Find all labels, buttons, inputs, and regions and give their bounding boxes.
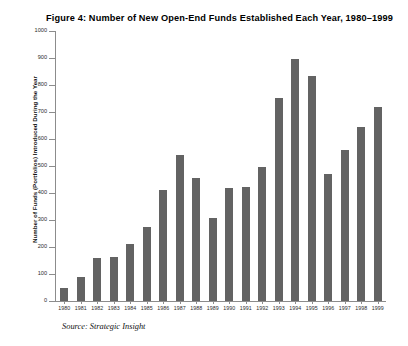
y-axis-tick-label: 700 <box>21 109 47 115</box>
y-axis-tick <box>49 112 55 113</box>
y-axis-tick-label: 400 <box>21 190 47 196</box>
y-axis-tick-label: 200 <box>21 244 47 250</box>
x-axis-tick <box>163 301 164 304</box>
y-axis-tick <box>49 58 55 59</box>
x-axis-tick <box>147 301 148 304</box>
x-axis-tick <box>130 301 131 304</box>
y-axis-label-wrap: 0 <box>17 298 47 304</box>
y-axis-label-wrap: 200 <box>17 244 47 250</box>
source-note: Source: Strategic Insight <box>62 322 145 331</box>
y-axis-tick <box>49 139 55 140</box>
bar <box>324 174 332 301</box>
y-axis-tick <box>49 274 55 275</box>
bar <box>258 167 266 301</box>
y-axis-tick-label: 900 <box>21 55 47 61</box>
bar <box>143 227 151 301</box>
y-axis-title: Number of Funds (Portfolios) Introduced … <box>31 65 38 255</box>
x-axis-tick <box>64 301 65 304</box>
x-axis-tick <box>81 301 82 304</box>
y-axis-tick <box>49 247 55 248</box>
y-axis-label-wrap: 700 <box>17 109 47 115</box>
x-axis-tick <box>312 301 313 304</box>
bar <box>159 190 167 302</box>
bar <box>60 288 68 302</box>
y-axis-tick <box>49 166 55 167</box>
bar <box>357 127 365 301</box>
y-axis-tick-label: 800 <box>21 82 47 88</box>
x-axis-tick <box>262 301 263 304</box>
bar <box>192 178 200 301</box>
x-axis-tick <box>279 301 280 304</box>
y-axis-label-wrap: 100 <box>17 271 47 277</box>
bar <box>209 218 217 301</box>
y-axis-label-wrap: 600 <box>17 136 47 142</box>
bar <box>126 244 134 301</box>
y-axis-tick-label: 0 <box>21 298 47 304</box>
y-axis-tick-label: 100 <box>21 271 47 277</box>
y-axis-tick-label: 1000 <box>21 28 47 34</box>
x-axis-tick <box>246 301 247 304</box>
bar <box>308 76 316 301</box>
y-axis-label-wrap: 1000 <box>17 28 47 34</box>
x-axis-tick <box>295 301 296 304</box>
y-axis-label-wrap: 300 <box>17 217 47 223</box>
x-axis-tick <box>229 301 230 304</box>
x-axis-tick <box>114 301 115 304</box>
bar <box>93 258 101 301</box>
bar <box>374 107 382 301</box>
y-axis-tick <box>49 301 55 302</box>
y-axis-label-wrap: 900 <box>17 55 47 61</box>
bar-series <box>56 31 386 301</box>
y-axis-tick-label: 500 <box>21 163 47 169</box>
x-axis-tick <box>97 301 98 304</box>
x-axis-tick <box>345 301 346 304</box>
y-axis-label-wrap: 800 <box>17 82 47 88</box>
x-axis-tick <box>361 301 362 304</box>
x-axis-tick <box>328 301 329 304</box>
figure-container: Figure 4: Number of New Open-End Funds E… <box>0 0 408 346</box>
y-axis-label-wrap: 500 <box>17 163 47 169</box>
bar <box>291 59 299 301</box>
bar <box>225 188 233 301</box>
x-axis-line <box>55 301 386 302</box>
bar <box>275 98 283 301</box>
bar <box>110 257 118 301</box>
y-axis-tick <box>49 85 55 86</box>
x-axis-tick <box>378 301 379 304</box>
y-axis-tick <box>49 193 55 194</box>
y-axis-tick-label: 600 <box>21 136 47 142</box>
y-axis-tick-label: 300 <box>21 217 47 223</box>
chart-title: Figure 4: Number of New Open-End Funds E… <box>46 13 396 23</box>
y-axis-tick <box>49 220 55 221</box>
x-axis-tick <box>213 301 214 304</box>
bar <box>341 150 349 301</box>
y-axis-label-wrap: 400 <box>17 190 47 196</box>
bar <box>176 155 184 301</box>
bar <box>77 277 85 301</box>
bar <box>242 187 250 301</box>
x-axis-tick <box>180 301 181 304</box>
x-axis-tick <box>196 301 197 304</box>
x-axis-tick-label: 1999 <box>365 306 391 311</box>
y-axis-tick <box>49 31 55 32</box>
